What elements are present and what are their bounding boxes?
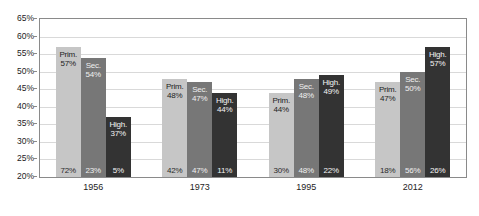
bar-share-label: 72% <box>56 166 81 175</box>
y-axis-tick-mark <box>33 141 37 142</box>
bar-share-label: 5% <box>106 166 131 175</box>
y-axis-tick-label: 25% <box>17 154 34 162</box>
y-axis-tick-mark <box>33 71 37 72</box>
y-axis-tick-label: 60% <box>17 32 34 40</box>
bar-series-name: Prim. <box>375 85 400 94</box>
bar-series-name: Prim. <box>56 50 81 59</box>
bar-value-label: High.37% <box>106 120 131 138</box>
bar-percent-value: 54% <box>81 70 106 79</box>
bar-percent-value: 57% <box>56 59 81 68</box>
x-axis-tick-label: 1995 <box>253 182 360 192</box>
bar-value-label: Sec.48% <box>294 82 319 100</box>
y-axis: 65%60%55%50%45%40%35%30%25%20% <box>0 18 37 178</box>
bar-value-label: Prim.44% <box>269 96 294 114</box>
y-axis-tick-label: 65% <box>17 14 34 22</box>
bar-value-label: Sec.47% <box>187 85 212 103</box>
bar-value-label: Sec.54% <box>81 61 106 79</box>
y-axis-tick-label: 55% <box>17 49 34 57</box>
bar-series-name: High. <box>106 120 131 129</box>
bar-percent-value: 47% <box>375 94 400 103</box>
bar-series-name: High. <box>212 96 237 105</box>
y-axis-tick-mark <box>33 18 37 19</box>
bar-share-label: 23% <box>81 166 106 175</box>
bar-percent-value: 49% <box>319 87 344 96</box>
bar-share-label: 48% <box>294 166 319 175</box>
x-axis-tick-label: 2012 <box>360 182 467 192</box>
bar-series-name: Prim. <box>162 82 187 91</box>
bar-1973-prim[interactable]: Prim.48%42% <box>162 79 187 177</box>
bar-percent-value: 48% <box>162 91 187 100</box>
bar-series-name: High. <box>319 78 344 87</box>
x-axis: 1956197319952012 <box>40 182 466 204</box>
bar-1995-prim[interactable]: Prim.44%30% <box>269 93 294 177</box>
bar-percent-value: 47% <box>187 94 212 103</box>
bar-value-label: Sec.50% <box>400 75 425 93</box>
y-axis-tick-label: 30% <box>17 137 34 145</box>
bar-value-label: High.57% <box>425 50 450 68</box>
y-axis-tick-mark <box>33 123 37 124</box>
x-axis-tick-label: 1956 <box>40 182 147 192</box>
y-axis-tick-mark <box>33 36 37 37</box>
bar-series-name: Sec. <box>400 75 425 84</box>
y-axis-tick-mark <box>33 106 37 107</box>
bar-share-label: 11% <box>212 166 237 175</box>
bar-percent-value: 44% <box>212 105 237 114</box>
bar-1956-sec[interactable]: Sec.54%23% <box>81 58 106 177</box>
y-axis-tick-label: 50% <box>17 67 34 75</box>
y-axis-tick-mark <box>33 158 37 159</box>
bar-percent-value: 44% <box>269 105 294 114</box>
bar-series-name: Sec. <box>294 82 319 91</box>
bar-share-label: 22% <box>319 166 344 175</box>
bar-series-name: Sec. <box>187 85 212 94</box>
bar-2012-sec[interactable]: Sec.50%56% <box>400 72 425 177</box>
bar-2012-high[interactable]: High.57%26% <box>425 47 450 177</box>
y-axis-tick-label: 20% <box>17 172 34 180</box>
y-axis-tick-label: 35% <box>17 119 34 127</box>
bar-percent-value: 37% <box>106 129 131 138</box>
bar-1995-high[interactable]: High.49%22% <box>319 75 344 177</box>
bar-series-name: Prim. <box>269 96 294 105</box>
bar-share-label: 56% <box>400 166 425 175</box>
y-axis-tick-mark <box>33 176 37 177</box>
bar-percent-value: 57% <box>425 59 450 68</box>
bar-share-label: 30% <box>269 166 294 175</box>
bar-1956-high[interactable]: High.37%5% <box>106 117 131 177</box>
bar-share-label: 26% <box>425 166 450 175</box>
bar-value-label: Prim.48% <box>162 82 187 100</box>
bar-value-label: Prim.57% <box>56 50 81 68</box>
bar-series-name: Sec. <box>81 61 106 70</box>
y-axis-tick-mark <box>33 53 37 54</box>
bar-2012-prim[interactable]: Prim.47%18% <box>375 82 400 177</box>
bar-1956-prim[interactable]: Prim.57%72% <box>56 47 81 177</box>
bar-1995-sec[interactable]: Sec.48%48% <box>294 79 319 177</box>
x-axis-tick-label: 1973 <box>147 182 254 192</box>
bar-value-label: High.49% <box>319 78 344 96</box>
bar-chart: 65%60%55%50%45%40%35%30%25%20% Prim.57%7… <box>0 0 479 216</box>
bar-value-label: Prim.47% <box>375 85 400 103</box>
bars-layer: Prim.57%72%Sec.54%23%High.37%5%Prim.48%4… <box>40 19 466 177</box>
y-axis-tick-mark <box>33 88 37 89</box>
y-axis-tick-label: 45% <box>17 84 34 92</box>
bar-1973-sec[interactable]: Sec.47%47% <box>187 82 212 177</box>
bar-percent-value: 50% <box>400 84 425 93</box>
bar-value-label: High.44% <box>212 96 237 114</box>
bar-series-name: High. <box>425 50 450 59</box>
bar-1973-high[interactable]: High.44%11% <box>212 93 237 177</box>
y-axis-tick-label: 40% <box>17 102 34 110</box>
bar-share-label: 47% <box>187 166 212 175</box>
bar-share-label: 18% <box>375 166 400 175</box>
bar-share-label: 42% <box>162 166 187 175</box>
bar-percent-value: 48% <box>294 91 319 100</box>
